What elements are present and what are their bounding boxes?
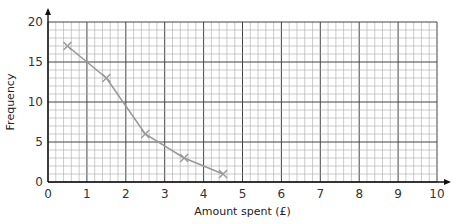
x-tick-label: 0 (44, 187, 52, 201)
x-axis-arrow-icon (444, 179, 451, 185)
y-tick-label: 15 (28, 55, 43, 69)
x-tick-label: 3 (161, 187, 169, 201)
x-tick-label: 5 (239, 187, 247, 201)
x-tick-label: 1 (83, 187, 91, 201)
y-tick-label: 5 (35, 135, 43, 149)
x-tick-label: 6 (278, 187, 286, 201)
x-tick-label: 8 (355, 187, 363, 201)
y-axis-label: Frequency (4, 73, 17, 130)
y-tick-label: 20 (28, 15, 43, 29)
x-axis-label: Amount spent (£) (194, 205, 291, 218)
y-tick-label: 10 (28, 95, 43, 109)
x-tick-label: 2 (122, 187, 130, 201)
x-tick-label: 7 (316, 187, 324, 201)
x-tick-label: 4 (200, 187, 208, 201)
y-tick-label: 0 (35, 175, 43, 189)
frequency-chart: 01234567891005101520Amount spent (£)Freq… (0, 0, 458, 224)
y-axis-arrow-icon (45, 8, 51, 15)
x-tick-label: 9 (394, 187, 402, 201)
x-tick-label: 10 (429, 187, 444, 201)
